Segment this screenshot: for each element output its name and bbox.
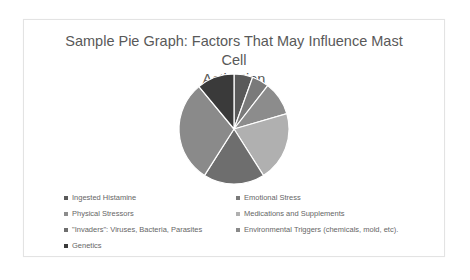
legend-swatch-icon xyxy=(236,228,240,232)
chart-frame: Sample Pie Graph: Factors That May Influ… xyxy=(23,19,445,257)
legend-label: Physical Stressors xyxy=(72,209,134,218)
legend-item-physical-stressors: Physical Stressors xyxy=(64,208,236,219)
legend-swatch-icon xyxy=(64,244,68,248)
legend-label: Medications and Supplements xyxy=(244,209,344,218)
legend-item-invaders: "Invaders": Viruses, Bacteria, Parasites xyxy=(64,224,236,235)
chart-title-line-1: Sample Pie Graph: Factors That May Influ… xyxy=(64,32,404,70)
legend-label: "Invaders": Viruses, Bacteria, Parasites xyxy=(72,225,202,234)
chart-legend: Ingested Histamine Emotional Stress Phys… xyxy=(64,192,444,251)
legend-label: Emotional Stress xyxy=(244,193,301,202)
legend-item-ingested-histamine: Ingested Histamine xyxy=(64,192,236,203)
legend-label: Environmental Triggers (chemicals, mold,… xyxy=(244,225,398,234)
legend-swatch-icon xyxy=(64,196,68,200)
legend-item-genetics: Genetics xyxy=(64,240,236,251)
legend-label: Ingested Histamine xyxy=(72,193,136,202)
legend-item-emotional-stress: Emotional Stress xyxy=(236,192,444,203)
legend-swatch-icon xyxy=(64,228,68,232)
legend-swatch-icon xyxy=(64,212,68,216)
legend-item-medications-supplements: Medications and Supplements xyxy=(236,208,444,219)
legend-item-environmental-triggers: Environmental Triggers (chemicals, mold,… xyxy=(236,224,444,235)
legend-swatch-icon xyxy=(236,196,240,200)
legend-swatch-icon xyxy=(236,212,240,216)
legend-label: Genetics xyxy=(72,241,102,250)
pie-chart xyxy=(177,72,291,186)
